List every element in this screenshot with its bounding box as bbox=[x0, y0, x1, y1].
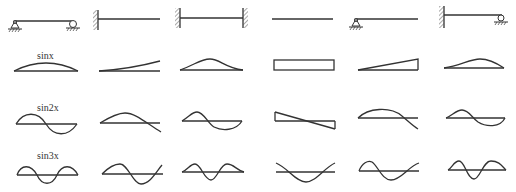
mode3-simply-supported bbox=[17, 167, 78, 184]
pin-support-icon bbox=[8, 21, 22, 32]
diagram-canvas: sinx sin2x sin3x bbox=[0, 0, 516, 192]
fixed-wall-icon bbox=[175, 8, 180, 28]
beam-pin-free bbox=[349, 19, 418, 30]
fixed-wall-icon bbox=[93, 10, 98, 30]
mode1-cantilever bbox=[99, 61, 160, 71]
pin-support-icon bbox=[349, 19, 363, 30]
mode2-fixed-fixed bbox=[182, 112, 242, 129]
mode1-simply-supported bbox=[14, 63, 78, 71]
beam-cantilever bbox=[93, 10, 160, 30]
roller-support-icon bbox=[494, 15, 508, 25]
mode2-cantilever bbox=[100, 113, 161, 132]
beam-simply-supported bbox=[8, 21, 80, 33]
mode3-free-free bbox=[276, 163, 335, 182]
mode1-fixed-fixed bbox=[180, 59, 243, 70]
mode2-simply-supported bbox=[16, 114, 77, 134]
beam-fixed-roller bbox=[439, 6, 508, 28]
mode1-free-free bbox=[274, 60, 334, 70]
beam-diagram-svg bbox=[0, 0, 516, 192]
roller-support-icon bbox=[66, 21, 80, 32]
mode1-pin-free bbox=[358, 59, 418, 70]
mode2-pin-free bbox=[358, 109, 418, 129]
mode3-fixed-fixed bbox=[182, 164, 244, 180]
mode3-pin-free bbox=[359, 161, 419, 180]
mode2-free-free bbox=[275, 112, 335, 129]
fixed-wall-icon bbox=[439, 6, 444, 28]
mode1-fixed-roller bbox=[444, 59, 504, 68]
mode2-fixed-roller bbox=[446, 110, 505, 126]
mode3-cantilever bbox=[102, 164, 163, 184]
mode3-fixed-roller bbox=[448, 161, 506, 179]
beam-fixed-fixed bbox=[175, 8, 248, 28]
fixed-wall-icon bbox=[243, 8, 248, 28]
